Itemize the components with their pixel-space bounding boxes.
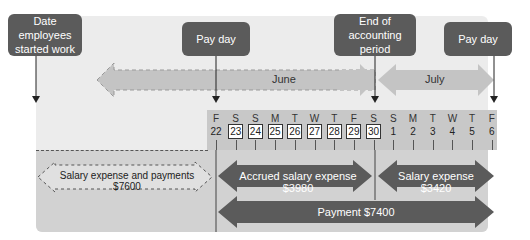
payment-label: Payment $7400 xyxy=(228,206,484,218)
calendar-tick xyxy=(315,140,316,150)
calendar-day-letter: T xyxy=(464,113,480,124)
callout-pay-day-2: Pay day xyxy=(444,22,512,56)
calendar-day-letter: M xyxy=(267,113,283,124)
calendar-day-letter: F xyxy=(346,113,362,124)
callout-pay-day-1: Pay day xyxy=(182,22,250,56)
calendar-tick xyxy=(413,140,414,150)
callout-end-period: End of accounting period xyxy=(334,14,416,56)
calendar-tick xyxy=(354,140,355,150)
calendar-date: 22 xyxy=(208,126,224,137)
calendar-tick xyxy=(275,140,276,150)
month-label-june: June xyxy=(272,73,296,85)
calendar-tick xyxy=(236,140,237,150)
accrued-expense-label: Accrued salary expense $3980 xyxy=(228,170,368,194)
calendar-day-letter: M xyxy=(405,113,421,124)
calendar-date: 24 xyxy=(248,124,263,139)
calendar-day-letter: T xyxy=(326,113,342,124)
calendar-day-letter: S xyxy=(228,113,244,124)
calendar-tick xyxy=(452,140,453,150)
calendar-date: 4 xyxy=(444,126,460,137)
calendar-date: 28 xyxy=(327,124,342,139)
calendar-day-letter: S xyxy=(247,113,263,124)
month-label-july: July xyxy=(425,73,445,85)
june-arrow xyxy=(97,63,375,97)
calendar-date: 27 xyxy=(307,124,322,139)
calendar-date: 23 xyxy=(228,124,243,139)
calendar-date: 30 xyxy=(366,124,381,139)
calendar-date: 6 xyxy=(484,126,500,137)
calendar-day-letter: W xyxy=(444,113,460,124)
calendar-tick xyxy=(433,140,434,150)
calendar-day-letter: W xyxy=(307,113,323,124)
calendar-tick xyxy=(216,140,217,150)
calendar-date: 25 xyxy=(268,124,283,139)
calendar-day-letter: S xyxy=(385,113,401,124)
calendar-date: 26 xyxy=(287,124,302,139)
calendar-tick xyxy=(255,140,256,150)
calendar-date: 5 xyxy=(464,126,480,137)
calendar-date: 3 xyxy=(425,126,441,137)
callout-start-date: Date employees started work xyxy=(8,14,82,56)
prior-period-label: Salary expense and payments $7600 xyxy=(52,170,202,192)
july-expense-label: Salary expense $3420 xyxy=(386,170,486,194)
calendar-tick xyxy=(334,140,335,150)
calendar-day-letter: F xyxy=(484,113,500,124)
calendar-tick xyxy=(492,140,493,150)
calendar-tick xyxy=(472,140,473,150)
calendar-date: 1 xyxy=(385,126,401,137)
calendar-day-letter: T xyxy=(287,113,303,124)
calendar-tick xyxy=(393,140,394,150)
calendar-tick xyxy=(295,140,296,150)
calendar-tick xyxy=(374,140,375,150)
calendar-day-letter: S xyxy=(366,113,382,124)
calendar-day-letter: T xyxy=(425,113,441,124)
calendar-date: 29 xyxy=(346,124,361,139)
calendar-day-letter: F xyxy=(208,113,224,124)
calendar-date: 2 xyxy=(405,126,421,137)
